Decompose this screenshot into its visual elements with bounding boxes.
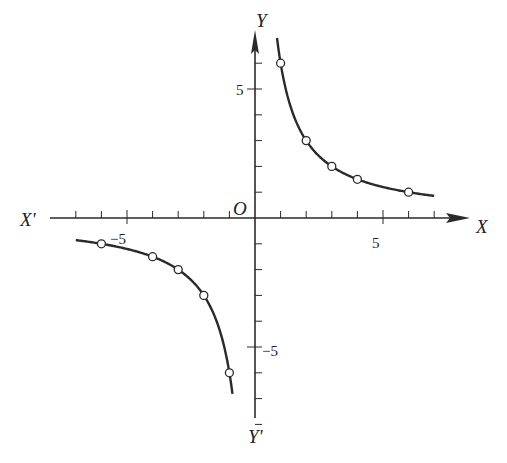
axes	[50, 30, 470, 424]
data-point-marker	[225, 369, 233, 377]
y-neg-axis-label: Y'	[248, 426, 264, 447]
data-point-marker	[353, 175, 361, 183]
x-tick-label-neg5: −5	[110, 231, 126, 247]
data-point-marker	[328, 162, 336, 170]
data-point-marker	[405, 188, 413, 196]
y-tick-label-5: 5	[236, 82, 244, 98]
x-axis-label: X	[475, 216, 489, 237]
data-point-marker	[200, 291, 208, 299]
curve-negative-branch	[76, 240, 233, 394]
data-point-marker	[97, 240, 105, 248]
data-point-marker	[302, 137, 310, 145]
x-neg-axis-label: X'	[19, 209, 37, 230]
axis-labels: X' X Y Y' O 5 −5 5 −5	[19, 10, 489, 447]
curve-positive-branch	[277, 38, 434, 196]
origin-label: O	[233, 198, 247, 219]
x-tick-label-5: 5	[372, 235, 380, 251]
y-axis-label: Y	[256, 10, 269, 31]
data-point-marker	[149, 253, 157, 261]
data-point-marker	[277, 59, 285, 67]
data-point-marker	[174, 266, 182, 274]
y-tick-label-neg5: −5	[262, 343, 278, 359]
hyperbola-chart: X' X Y Y' O 5 −5 5 −5	[0, 0, 507, 463]
